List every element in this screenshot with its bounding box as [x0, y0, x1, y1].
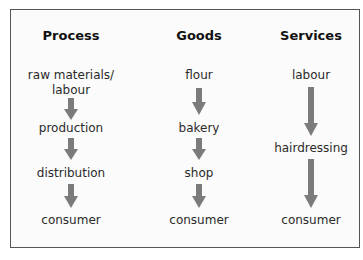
process-step-production: production [39, 121, 103, 135]
goods-step-consumer: consumer [169, 213, 228, 227]
down-arrow-icon [192, 138, 206, 160]
goods-step-flour: flour [185, 68, 212, 82]
goods-step-shop: shop [185, 166, 214, 180]
goods-step-bakery: bakery [179, 121, 220, 135]
header-services: Services [280, 29, 342, 43]
services-step-labour: labour [292, 68, 330, 82]
down-arrow-icon [64, 98, 78, 120]
down-arrow-icon [304, 87, 318, 136]
header-process: Process [43, 29, 100, 43]
down-arrow-icon [64, 138, 78, 160]
down-arrow-icon [304, 159, 318, 208]
down-arrow-icon [192, 184, 206, 208]
services-step-consumer: consumer [281, 213, 340, 227]
services-step-hairdressing: hairdressing [274, 141, 348, 155]
process-step-labour: labour [52, 83, 90, 97]
process-step-consumer: consumer [41, 213, 100, 227]
process-step-raw-materials: raw materials/ [28, 68, 114, 82]
down-arrow-icon [64, 184, 78, 208]
header-goods: Goods [176, 29, 222, 43]
process-step-distribution: distribution [37, 166, 105, 180]
down-arrow-icon [192, 88, 206, 115]
